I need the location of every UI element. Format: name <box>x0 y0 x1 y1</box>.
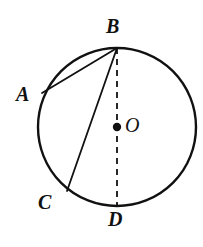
point-label-O: O <box>125 115 139 135</box>
geometry-figure: A B C D O <box>0 0 203 247</box>
center-dot <box>113 123 121 131</box>
point-label-D: D <box>108 209 122 229</box>
point-label-B: B <box>106 16 119 36</box>
geometry-canvas <box>0 0 203 247</box>
point-label-C: C <box>38 192 51 212</box>
chord-BC <box>67 48 117 191</box>
point-label-A: A <box>16 84 29 104</box>
chord-AB <box>42 48 117 93</box>
